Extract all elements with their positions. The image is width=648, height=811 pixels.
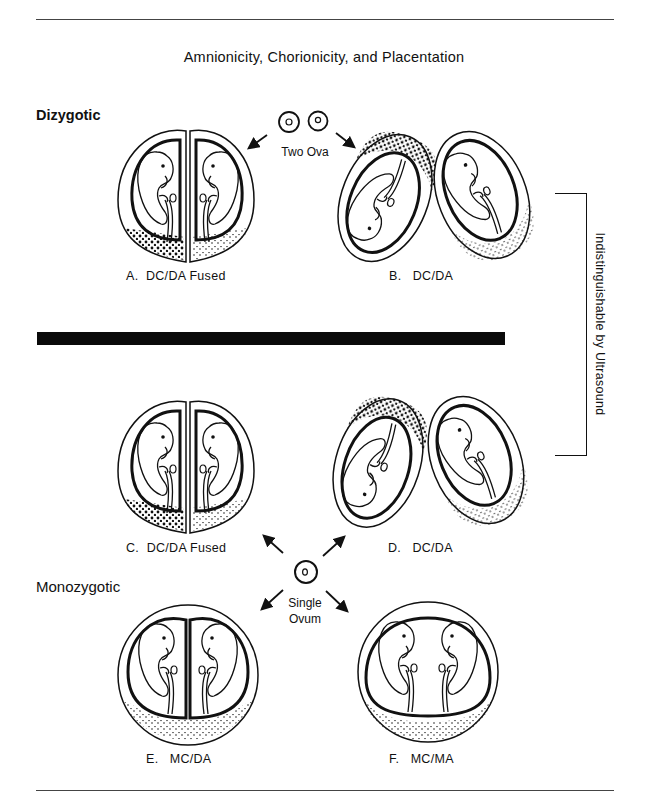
diagram-artwork: [0, 0, 648, 811]
panel-e-illustration: [118, 605, 258, 745]
panel-a-illustration: [118, 130, 254, 262]
panel-d-illustration: [318, 382, 542, 538]
panel-c-illustration: [118, 401, 254, 533]
panel-f-illustration: [358, 602, 498, 742]
single-ovum-icon: [295, 561, 317, 583]
two-ova-icon: [279, 112, 328, 133]
panel-b-illustration: [320, 117, 547, 275]
